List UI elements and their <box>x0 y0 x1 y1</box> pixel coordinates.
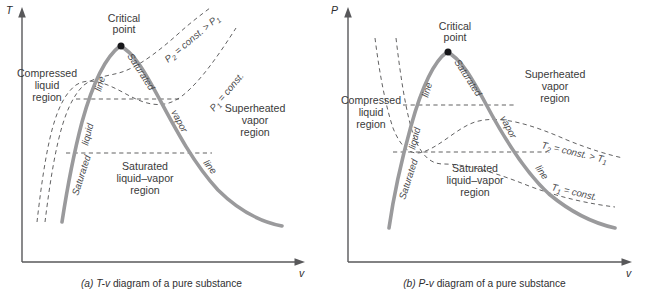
pv-isotherm-t2-label: T2 = const. > T1 <box>540 139 608 167</box>
pv-compressed-liquid-line1: Compressed <box>341 94 401 106</box>
pv-saturated-mix-line1: Saturated <box>452 162 498 174</box>
panel-tv-diagram: T v Critical point Compressed liquid reg… <box>0 0 323 293</box>
tv-saturated-mix-line1: Saturated <box>122 160 168 172</box>
tv-compressed-liquid-line1: Compressed <box>17 67 77 79</box>
panel-pv-diagram: P v Critical point Compressed liquid reg… <box>323 0 646 293</box>
pv-critical-point-label-line2: point <box>444 31 467 43</box>
pv-caption: (b) P-v diagram of a pure substance <box>323 278 646 289</box>
pv-y-axis-arrow-icon <box>344 7 352 18</box>
tv-superheated-line2: vapor <box>242 114 269 126</box>
pv-compressed-liquid-line3: region <box>356 118 386 130</box>
pv-x-axis-arrow-icon <box>622 258 633 266</box>
pv-caption-text: diagram of a pure substance <box>437 278 566 289</box>
pv-superheated-line1: Superheated <box>525 68 586 80</box>
pv-sat-vapor-word1: Saturated <box>452 57 484 98</box>
tv-sat-vapor-word1: Saturated <box>125 51 157 92</box>
tv-x-axis-arrow-icon <box>295 258 306 266</box>
pv-compressed-liquid-line2: liquid <box>359 106 384 118</box>
tv-compressed-liquid-line2: liquid <box>35 79 60 91</box>
pv-saturated-mix-line3: region <box>460 186 490 198</box>
tv-saturated-mix-line3: region <box>130 184 160 196</box>
tv-diagram-svg: T v Critical point Compressed liquid reg… <box>0 0 323 293</box>
pv-saturated-mix-line2: liquid–vapor <box>446 174 504 186</box>
pv-critical-point-marker <box>445 49 452 56</box>
pv-diagram-svg: P v Critical point Compressed liquid reg… <box>323 0 646 293</box>
tv-sat-liquid-word3: line <box>92 75 107 92</box>
tv-superheated-line1: Superheated <box>225 102 286 114</box>
pv-sat-liquid-word3: line <box>419 81 434 98</box>
tv-y-axis-arrow-icon <box>18 7 26 18</box>
tv-caption-text: diagram of a pure substance <box>113 278 242 289</box>
tv-caption-prefix: (a) <box>81 278 93 289</box>
tv-critical-point-marker <box>118 43 125 50</box>
figure-container: T v Critical point Compressed liquid reg… <box>0 0 646 293</box>
tv-caption-italic: T-v <box>96 278 110 289</box>
tv-caption: (a) T-v diagram of a pure substance <box>0 278 323 289</box>
tv-critical-point-label-line2: point <box>113 23 136 35</box>
pv-y-axis-label: P <box>331 4 338 16</box>
tv-y-axis-label: T <box>6 4 14 16</box>
tv-saturated-mix-line2: liquid–vapor <box>116 172 174 184</box>
pv-caption-italic: P-v <box>419 278 434 289</box>
pv-caption-prefix: (b) <box>403 278 415 289</box>
tv-compressed-liquid-line3: region <box>32 91 62 103</box>
pv-superheated-line3: region <box>540 92 570 104</box>
tv-superheated-line3: region <box>240 126 270 138</box>
pv-sat-vapor-word2: vapor <box>498 114 519 141</box>
pv-superheated-line2: vapor <box>542 80 569 92</box>
